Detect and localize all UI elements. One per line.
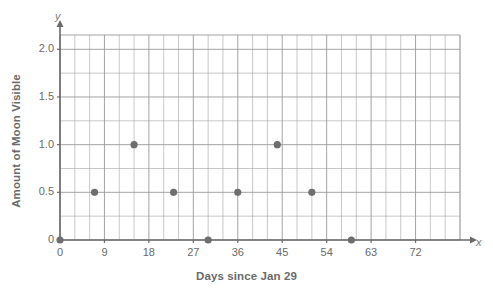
data-point [170,189,177,196]
axes [57,20,478,244]
x-tick-label: 9 [89,246,119,258]
y-tick-label: 2.0 [24,42,54,54]
y-axis-arrow [57,20,64,27]
x-tick-label: 63 [356,246,386,258]
data-point [56,236,63,243]
x-tick-label: 27 [178,246,208,258]
data-point [274,141,281,148]
x-tick-label: 0 [45,246,75,258]
x-tick-label: 54 [312,246,342,258]
y-tick-label: 1.5 [24,90,54,102]
x-tick-label: 72 [401,246,431,258]
x-tick-label: 45 [267,246,297,258]
data-point [205,236,212,243]
data-point [234,189,241,196]
data-point [308,189,315,196]
x-axis-arrow [470,237,477,244]
data-point [91,189,98,196]
y-tick-label: 0.5 [24,185,54,197]
scatter-plot-figure: Amount of Moon Visible Days since Jan 29… [0,0,493,296]
data-point [130,141,137,148]
data-point [348,236,355,243]
y-tick-label: 0 [24,233,54,245]
grid-lines [60,35,460,240]
y-tick-label: 1.0 [24,138,54,150]
x-tick-label: 18 [134,246,164,258]
x-tick-label: 36 [223,246,253,258]
